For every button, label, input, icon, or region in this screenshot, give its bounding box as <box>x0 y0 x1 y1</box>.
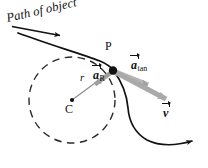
physics-diagram-figure: Path of object P C r aR atan v <box>0 0 208 168</box>
tangential-acceleration-subscript: tan <box>137 64 147 73</box>
point-p-label: P <box>105 40 112 52</box>
radius-label: r <box>80 72 84 83</box>
center-c-label: C <box>65 103 73 115</box>
radial-acceleration-subscript: R <box>99 74 105 83</box>
radial-acceleration-label: aR <box>93 66 105 83</box>
tangential-acceleration-symbol: a <box>131 59 137 71</box>
velocity-symbol: v <box>163 107 168 119</box>
tangential-acceleration-label: atan <box>131 56 147 73</box>
radial-acceleration-symbol: a <box>93 69 99 81</box>
velocity-label: v <box>163 104 168 120</box>
vector-arrow-head-icon <box>99 63 102 67</box>
diagram-canvas <box>0 0 208 168</box>
point-p-marker <box>109 66 117 74</box>
vector-arrow-head-icon <box>137 53 140 57</box>
vector-arrow-head-icon <box>168 101 171 105</box>
